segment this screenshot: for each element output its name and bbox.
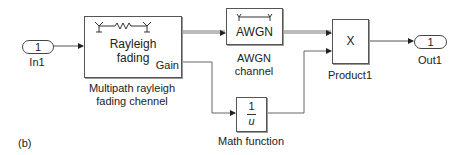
outport-number: 1 bbox=[427, 36, 433, 48]
outport-label: Out1 bbox=[412, 54, 448, 67]
figure-label: (b) bbox=[18, 137, 31, 150]
inport-number: 1 bbox=[35, 41, 41, 53]
rayleigh-block-label-2: fading chennel bbox=[82, 95, 182, 108]
inport-in1[interactable]: 1 bbox=[22, 40, 54, 54]
gain-port-label: Gain bbox=[156, 59, 179, 72]
fading-channel-icon bbox=[85, 20, 181, 34]
math-function-label: Math function bbox=[212, 135, 290, 148]
awgn-block-label-2: channel bbox=[222, 65, 286, 78]
rayleigh-fading-block[interactable]: Rayleigh fading Gain bbox=[84, 16, 182, 78]
denominator: u bbox=[237, 115, 266, 128]
numerator: 1 bbox=[237, 100, 266, 113]
awgn-channel-block[interactable]: AWGN bbox=[226, 8, 283, 45]
inport-label: In1 bbox=[20, 56, 54, 69]
product-block-label: Product1 bbox=[324, 69, 376, 82]
rayleigh-text: Rayleigh bbox=[85, 38, 181, 51]
multiply-icon: X bbox=[333, 35, 368, 48]
awgn-text: AWGN bbox=[227, 26, 282, 39]
product-block[interactable]: X bbox=[332, 19, 369, 64]
math-function-block[interactable]: 1 u bbox=[236, 97, 267, 132]
awgn-block-label-1: AWGN bbox=[222, 52, 286, 65]
rayleigh-block-label-1: Multipath rayleigh bbox=[82, 82, 182, 95]
awgn-channel-icon bbox=[227, 13, 282, 23]
outport-out1[interactable]: 1 bbox=[414, 35, 447, 49]
